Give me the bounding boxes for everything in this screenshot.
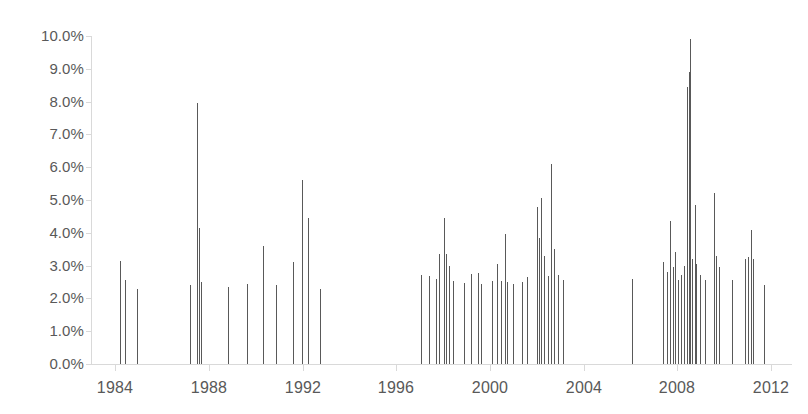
bar bbox=[716, 256, 717, 364]
bar bbox=[120, 261, 121, 364]
bar bbox=[705, 280, 706, 364]
bar bbox=[276, 285, 277, 364]
bar bbox=[663, 262, 664, 364]
bar bbox=[429, 276, 430, 364]
bar bbox=[228, 287, 229, 364]
bar bbox=[687, 87, 688, 364]
bar bbox=[439, 254, 440, 364]
x-tick-mark bbox=[115, 365, 116, 371]
bar bbox=[689, 72, 690, 364]
y-tick-mark bbox=[86, 167, 92, 168]
bar bbox=[505, 234, 506, 364]
bar bbox=[696, 264, 697, 364]
bar bbox=[507, 282, 508, 364]
x-tick-label: 2008 bbox=[642, 378, 712, 397]
bar bbox=[690, 39, 691, 364]
bar bbox=[199, 228, 200, 364]
bar bbox=[320, 289, 321, 364]
y-tick-mark bbox=[86, 298, 92, 299]
y-tick-mark bbox=[86, 36, 92, 37]
bar bbox=[548, 276, 549, 364]
y-tick-mark bbox=[86, 266, 92, 267]
bar bbox=[673, 267, 674, 364]
y-tick-label: 6.0% bbox=[22, 159, 84, 174]
x-tick-mark bbox=[677, 365, 678, 371]
bar bbox=[197, 103, 198, 364]
y-tick-label: 5.0% bbox=[22, 192, 84, 207]
bar bbox=[492, 281, 493, 364]
bar bbox=[449, 266, 450, 364]
x-tick-label: 2000 bbox=[455, 378, 525, 397]
y-tick-mark bbox=[86, 102, 92, 103]
x-axis-line bbox=[91, 364, 792, 365]
x-tick-label: 2004 bbox=[549, 378, 619, 397]
bar bbox=[539, 238, 540, 364]
x-tick-mark bbox=[209, 365, 210, 371]
y-tick-label: 7.0% bbox=[22, 126, 84, 141]
bar bbox=[263, 246, 264, 364]
x-tick-mark bbox=[303, 365, 304, 371]
bar bbox=[481, 284, 482, 364]
plot-area bbox=[92, 36, 792, 364]
bar bbox=[478, 273, 479, 364]
bar bbox=[714, 193, 715, 364]
bar bbox=[753, 259, 754, 364]
bar bbox=[745, 259, 746, 364]
bar bbox=[522, 282, 523, 364]
y-tick-label: 0.0% bbox=[22, 356, 84, 371]
bar bbox=[308, 218, 309, 364]
bar bbox=[302, 180, 303, 364]
bar-chart: 10.0%9.0%8.0%7.0%6.0%5.0%4.0%3.0%2.0%1.0… bbox=[0, 0, 808, 414]
x-tick-mark bbox=[584, 365, 585, 371]
bar bbox=[527, 277, 528, 364]
bar bbox=[497, 264, 498, 364]
bar bbox=[436, 279, 437, 364]
bar bbox=[551, 164, 552, 364]
y-tick-label: 2.0% bbox=[22, 290, 84, 305]
bar bbox=[137, 289, 138, 364]
bar bbox=[563, 280, 564, 364]
bar bbox=[554, 249, 555, 364]
bar bbox=[537, 207, 538, 364]
bar bbox=[190, 285, 191, 364]
bar bbox=[471, 274, 472, 364]
bar bbox=[421, 275, 422, 364]
bar bbox=[544, 256, 545, 364]
x-tick-label: 1992 bbox=[268, 378, 338, 397]
bar bbox=[513, 284, 514, 364]
x-tick-label: 1996 bbox=[361, 378, 431, 397]
bar bbox=[681, 275, 682, 364]
y-tick-label: 1.0% bbox=[22, 323, 84, 338]
y-tick-mark bbox=[86, 69, 92, 70]
y-tick-mark bbox=[86, 331, 92, 332]
x-tick-label: 1984 bbox=[80, 378, 150, 397]
bar bbox=[675, 252, 676, 364]
bar bbox=[444, 218, 445, 364]
y-tick-mark bbox=[86, 200, 92, 201]
bar bbox=[748, 257, 749, 364]
bar bbox=[558, 275, 559, 364]
y-tick-label: 3.0% bbox=[22, 258, 84, 273]
y-tick-mark bbox=[86, 364, 92, 365]
x-tick-mark bbox=[396, 365, 397, 371]
y-axis-tick-labels: 10.0%9.0%8.0%7.0%6.0%5.0%4.0%3.0%2.0%1.0… bbox=[0, 0, 84, 414]
bar bbox=[453, 281, 454, 364]
bar bbox=[293, 262, 294, 364]
bar bbox=[201, 282, 202, 364]
y-tick-label: 8.0% bbox=[22, 94, 84, 109]
bar bbox=[632, 279, 633, 364]
bar bbox=[751, 230, 752, 364]
bar bbox=[464, 283, 465, 364]
bar bbox=[692, 259, 693, 364]
bar bbox=[700, 275, 701, 364]
bar bbox=[695, 205, 696, 364]
bar bbox=[667, 272, 668, 364]
bar bbox=[247, 284, 248, 364]
y-tick-label: 4.0% bbox=[22, 225, 84, 240]
y-tick-mark bbox=[86, 134, 92, 135]
y-tick-label: 9.0% bbox=[22, 61, 84, 76]
bar bbox=[501, 281, 502, 364]
y-tick-label: 10.0% bbox=[22, 28, 84, 43]
x-tick-mark bbox=[771, 365, 772, 371]
bar bbox=[678, 280, 679, 364]
